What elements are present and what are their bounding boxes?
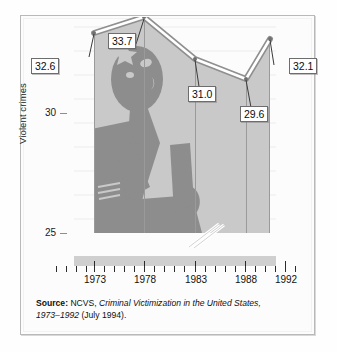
- data-label-1983: 31.0: [188, 86, 216, 102]
- x-tick-minor: [76, 266, 77, 272]
- y-tick-mark-30: [60, 113, 67, 114]
- x-tick-minor: [154, 266, 155, 272]
- x-tick-minor: [265, 266, 266, 272]
- plot-svg: [74, 17, 276, 233]
- x-axis-ticks: [50, 258, 300, 272]
- x-tick-major-1983: [195, 261, 196, 272]
- x-tick-minor: [56, 266, 57, 272]
- y-axis-title: Violent crimes: [17, 59, 28, 169]
- source-note: Source: NCVS, Criminal Victimization in …: [36, 298, 306, 321]
- figure-root: Violent crimes 30 25: [0, 0, 337, 352]
- axis-break-slash: [186, 222, 226, 250]
- data-label-1978: 33.7: [108, 33, 136, 49]
- source-title: Criminal Victimization in the United Sta…: [99, 298, 261, 308]
- x-tick-minor: [124, 266, 125, 272]
- x-tick-minor: [225, 266, 226, 272]
- x-tick-major-1973: [94, 261, 95, 272]
- y-tick-label-25: 25: [34, 227, 56, 238]
- x-tick-minor: [295, 266, 296, 272]
- x-tick-minor: [275, 266, 276, 272]
- source-years: 1973–1992: [36, 310, 79, 320]
- y-tick-mark-25: [60, 233, 67, 234]
- data-label-1973: 32.6: [31, 58, 59, 74]
- x-tick-minor: [104, 266, 105, 272]
- x-tick-minor: [86, 266, 87, 272]
- x-label-1978: 1978: [134, 274, 156, 285]
- x-tick-minor: [164, 266, 165, 272]
- x-label-1983: 1983: [185, 274, 207, 285]
- source-agency: NCVS,: [68, 298, 99, 308]
- x-tick-minor: [255, 266, 256, 272]
- x-tick-minor: [235, 266, 236, 272]
- x-label-1992: 1992: [275, 274, 297, 285]
- x-axis-labels: 1973 1978 1983 1988 1992: [0, 274, 337, 288]
- x-tick-minor: [174, 266, 175, 272]
- source-prefix: Source:: [36, 298, 68, 308]
- x-label-1988: 1988: [235, 274, 257, 285]
- plot-area: [74, 17, 276, 233]
- x-tick-minor: [114, 266, 115, 272]
- x-tick-minor: [134, 266, 135, 272]
- data-label-1988: 29.6: [240, 106, 268, 122]
- x-tick-minor: [215, 266, 216, 272]
- x-tick-major-1978: [144, 261, 145, 272]
- x-tick-minor: [66, 266, 67, 272]
- x-tick-minor: [184, 266, 185, 272]
- x-tick-minor: [205, 266, 206, 272]
- x-tick-major-1992: [285, 261, 286, 272]
- x-tick-major-1988: [245, 261, 246, 272]
- y-tick-label-30: 30: [34, 107, 56, 118]
- data-label-1992: 32.1: [289, 58, 317, 74]
- source-suffix: (July 1994).: [79, 310, 126, 320]
- x-label-1973: 1973: [84, 274, 106, 285]
